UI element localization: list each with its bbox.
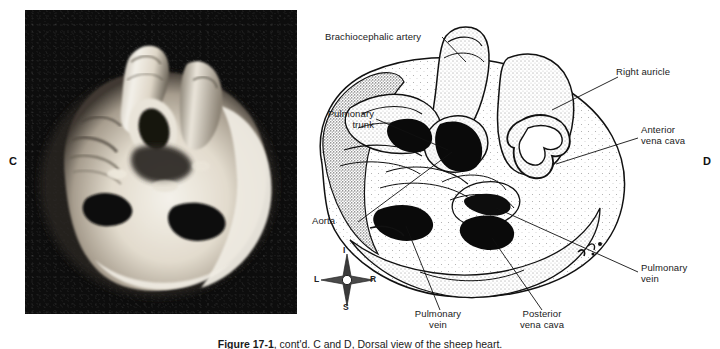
label-pulmonary-trunk: Pulmonary trunk	[316, 108, 374, 130]
caption-figure-number: Figure 17-1	[218, 338, 274, 349]
label-text: Right auricle	[616, 66, 670, 77]
figure-page: C D	[0, 0, 720, 349]
compass-label-right: R	[370, 274, 376, 284]
label-brachiocephalic-artery: Brachiocephalic artery	[325, 31, 421, 42]
label-posterior-vena-cava: Posterior vena cava	[509, 308, 575, 330]
photo-frame	[25, 10, 297, 314]
label-anterior-vena-cava: Anterior vena cava	[641, 124, 685, 146]
compass-label-inferior: S	[343, 302, 349, 312]
label-text: Brachiocephalic artery	[325, 31, 421, 42]
label-text-line1: Anterior	[641, 124, 685, 135]
label-text-line1: Posterior	[509, 308, 575, 319]
label-text-line2: trunk	[316, 119, 374, 130]
sheep-heart-photo	[25, 10, 297, 314]
label-aorta: Aorta	[312, 215, 335, 226]
label-right-auricle: Right auricle	[616, 66, 670, 77]
orientation-compass-rose: I L R S	[313, 246, 381, 314]
compass-label-left: L	[314, 274, 319, 284]
panel-c-photograph	[25, 10, 297, 314]
label-pulmonary-vein-right: Pulmonary vein	[641, 262, 687, 284]
label-text-line1: Pulmonary	[641, 262, 687, 273]
figure-caption: Figure 17-1, cont'd. C and D, Dorsal vie…	[0, 338, 720, 349]
compass-label-superior: I	[343, 245, 345, 255]
label-pulmonary-vein-bottom: Pulmonary vein	[408, 308, 468, 330]
panel-letter-c: C	[9, 155, 17, 167]
label-text-line2: vein	[408, 319, 468, 330]
label-text-line2: vena cava	[509, 319, 575, 330]
label-text-line2: vein	[641, 273, 687, 284]
label-text-line1: Pulmonary	[408, 308, 468, 319]
label-text: Aorta	[312, 215, 335, 226]
label-text-line1: Pulmonary	[316, 108, 374, 119]
caption-text: , cont'd. C and D, Dorsal view of the sh…	[274, 338, 502, 349]
label-text-line2: vena cava	[641, 135, 685, 146]
